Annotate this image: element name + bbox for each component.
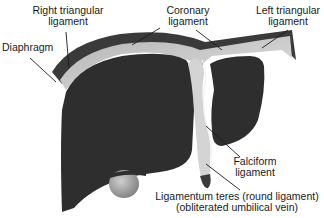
- label-falciform-ligament: Falciform ligament: [230, 156, 280, 178]
- label-left-triangular-ligament: Left triangular ligament: [252, 5, 324, 27]
- label-coronary-ligament: Coronary ligament: [160, 5, 216, 27]
- leader-diaphragm: [30, 58, 56, 82]
- liver-diagram: Right triangular ligament Coronary ligam…: [0, 0, 324, 218]
- liver-illustration: [0, 0, 324, 218]
- label-diaphragm: Diaphragm: [2, 42, 52, 53]
- left-lobe: [210, 56, 264, 146]
- label-ligamentum-teres: Ligamentum teres (round ligament) (oblit…: [152, 191, 322, 213]
- label-right-triangular-ligament: Right triangular ligament: [30, 5, 106, 27]
